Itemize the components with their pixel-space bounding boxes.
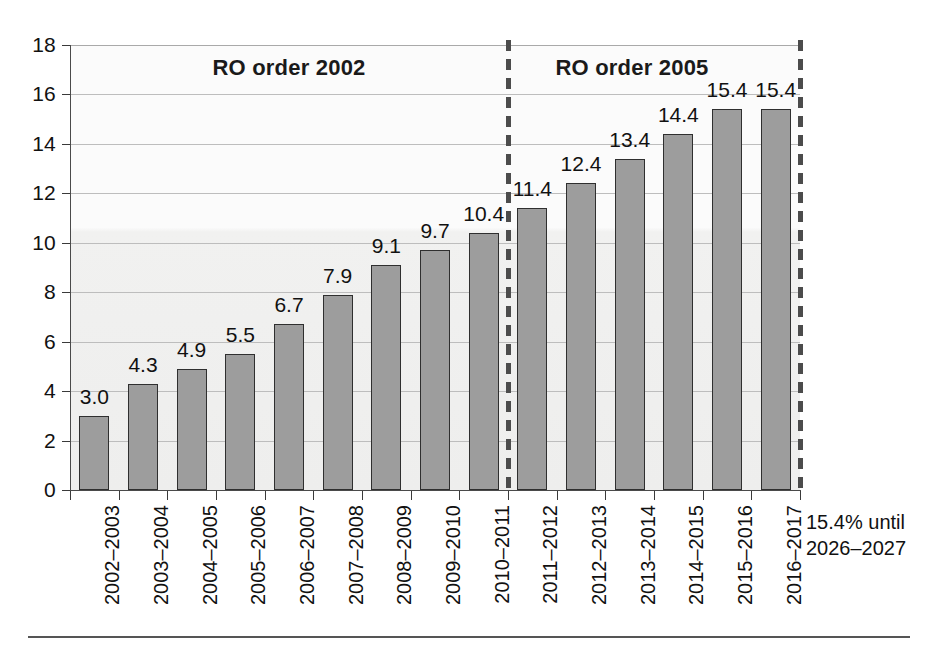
bar-value-label: 14.4 [638,104,718,125]
x-axis-tick [265,491,266,500]
x-axis-tick [119,491,120,500]
x-axis-tick [70,491,71,500]
x-axis-tick-label: 2007–2008 [346,505,366,605]
x-axis-tick-label: 2003–2004 [151,505,171,605]
x-axis-tick-label: 2008–2009 [394,505,414,605]
bar [79,416,109,490]
y-axis-tick-label: 18 [12,34,56,55]
bar [177,369,207,490]
x-axis-tick [167,491,168,500]
bar-value-label: 7.9 [298,265,378,286]
bar-value-label: 10.4 [444,203,524,224]
y-axis-tick [62,342,70,343]
x-axis-tick [703,491,704,500]
section-title-ro-order-2005: RO order 2005 [556,57,709,79]
bar-value-label: 15.4 [736,79,816,100]
x-axis-tick [313,491,314,500]
bar [371,265,401,490]
x-axis-tick [654,491,655,500]
bar-value-label: 5.5 [200,324,280,345]
x-axis-tick [557,491,558,500]
y-axis-tick-label: 4 [12,380,56,401]
bar-value-label: 3.0 [54,386,134,407]
bar-chart-figure: 024681012141618 3.04.34.95.56.77.99.19.7… [0,0,934,650]
bar-value-label: 11.4 [492,178,572,199]
divider-2002-2005 [506,40,511,495]
y-axis-tick-label: 16 [12,83,56,104]
divider-right-edge [798,40,803,495]
y-axis-tick [62,94,70,95]
y-axis-tick-label: 14 [12,133,56,154]
x-axis-tick-label: 2004–2005 [200,505,220,605]
bar [517,208,547,490]
bar [615,159,645,490]
y-axis-line [70,45,71,491]
plateau-note-line-2: 2026–2027 [806,535,906,561]
x-axis-tick-label: 2012–2013 [589,505,609,605]
x-axis-tick-label: 2009–2010 [443,505,463,605]
y-axis-tick [62,45,70,46]
x-axis-tick-label: 2002–2003 [102,505,122,605]
y-axis-tick [62,490,70,491]
bar [566,183,596,490]
y-axis-tick-label: 8 [12,281,56,302]
section-title-ro-order-2002: RO order 2002 [213,57,366,79]
y-axis-tick-label: 2 [12,430,56,451]
plot-top-border [70,45,801,46]
bar [469,233,499,490]
y-axis-tick [62,193,70,194]
bar [761,109,791,490]
bar [663,134,693,490]
bar [225,354,255,490]
y-axis-tick-label: 0 [12,479,56,500]
bar [128,384,158,490]
x-axis-tick-label: 2005–2006 [248,505,268,605]
bar-value-label: 6.7 [249,294,329,315]
x-axis-tick [362,491,363,500]
bar-value-label: 13.4 [590,129,670,150]
plateau-note-line-1: 15.4% until [806,509,906,535]
x-axis-tick-label: 2014–2015 [686,505,706,605]
x-axis-tick [459,491,460,500]
x-axis-tick-label: 2015–2016 [735,505,755,605]
x-axis-tick-label: 2006–2007 [297,505,317,605]
x-axis-tick-label: 2011–2012 [540,505,560,604]
y-axis-tick-label: 6 [12,331,56,352]
bar-value-label: 12.4 [541,153,621,174]
bar [323,295,353,490]
x-axis-tick-label: 2013–2014 [638,505,658,605]
x-axis-tick-label: 2010–2011 [492,505,512,604]
y-axis-tick [62,441,70,442]
plateau-note: 15.4% until 2026–2027 [806,509,906,561]
y-axis-tick [62,243,70,244]
y-axis-tick [62,292,70,293]
bar [712,109,742,490]
x-axis-tick [751,491,752,500]
y-axis-tick-label: 10 [12,232,56,253]
x-axis-tick-label: 2016–2017 [784,505,804,605]
y-axis-tick-label: 12 [12,182,56,203]
x-axis-tick [411,491,412,500]
x-axis-tick [216,491,217,500]
bar [420,250,450,490]
bar [274,324,304,490]
x-axis-line [70,490,801,491]
figure-bottom-rule [28,636,910,638]
x-axis-tick [605,491,606,500]
y-axis-tick [62,144,70,145]
